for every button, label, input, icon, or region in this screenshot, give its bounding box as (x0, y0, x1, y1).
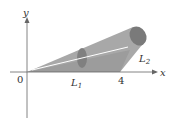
tick-4-label: 4 (118, 75, 124, 86)
y-axis-label: y (22, 7, 29, 18)
x-axis-arrow-icon (152, 70, 158, 75)
diagram-canvas: y x 0 4 L1 L2 (0, 0, 178, 121)
l2-label: L2 (138, 53, 151, 66)
x-axis-label: x (160, 67, 166, 78)
origin-label: 0 (17, 74, 23, 85)
l1-label: L1 (70, 77, 82, 90)
